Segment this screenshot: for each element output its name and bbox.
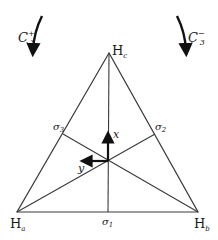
- label-vertex-ha: Ha: [10, 216, 26, 233]
- mirror-line-sigma2: [17, 134, 155, 212]
- label-y-axis: y: [77, 162, 85, 175]
- mirror-line-sigma1: [108, 53, 109, 212]
- label-x-axis: x: [113, 128, 120, 141]
- label-vertex-hb: Hb: [194, 216, 210, 233]
- label-vertex-hc: Hc: [112, 43, 127, 60]
- triangle-outline: [17, 53, 198, 212]
- label-c3-minus: C−3: [188, 29, 205, 47]
- symmetry-diagram: C+3 C−3 Hc Ha Hb σ1 σ2 σ3 x y: [0, 0, 218, 240]
- label-sigma2: σ2: [155, 121, 167, 134]
- label-c3-plus: C+3: [18, 29, 35, 47]
- rotation-arrow-c3-minus-icon: [177, 16, 186, 50]
- label-sigma1: σ1: [102, 216, 113, 229]
- label-sigma3: σ3: [53, 121, 65, 134]
